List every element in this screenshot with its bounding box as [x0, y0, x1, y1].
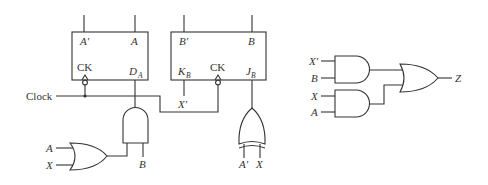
output-and1-input-xprime-label: X′ [308, 55, 319, 67]
output-and1-gate-icon [335, 56, 370, 83]
clock-net: Clock [26, 85, 218, 112]
flipflop-b-ck-label: CK [210, 61, 225, 73]
output-and2-gate-icon [335, 90, 370, 117]
output-z-label: Z [455, 72, 462, 84]
flipflop-b-j-sub: B [251, 71, 256, 80]
flipflop-a-d-label: D [128, 65, 137, 77]
clock-label: Clock [26, 90, 53, 102]
da-or-input-x-label: X [45, 159, 54, 171]
jb-xor-input-x-label: X [255, 158, 264, 170]
jb-logic: A′ X [238, 80, 265, 170]
da-or-input-a-label: A [45, 142, 53, 154]
output-and1-input-b-label: B [311, 72, 318, 84]
or-to-and-wire [107, 143, 127, 156]
flipflop-b-clock-bubble-icon [216, 80, 221, 85]
flipflop-b-k-input-label: X′ [177, 98, 188, 110]
flipflop-b-k-label: K [177, 65, 186, 77]
circuit-diagram: A′ A CK D A B′ B K B CK J B X′ Clock [0, 0, 488, 185]
da-or-gate-icon [70, 143, 107, 170]
flipflop-a-clock-bubble-icon [83, 80, 88, 85]
jb-xor-gate-icon [239, 108, 265, 144]
clock-junction-dot [83, 94, 86, 97]
flipflop-a-qbar-label: A′ [79, 35, 90, 47]
flipflop-a-q-label: A [130, 35, 138, 47]
flipflop-b-q-label: B [248, 35, 255, 47]
jb-xor-input-a-label: A′ [238, 158, 249, 170]
flipflop-a-ck-label: CK [77, 61, 92, 73]
da-and-gate-icon [123, 107, 148, 143]
flipflop-b-k-sub: B [186, 71, 191, 80]
flipflop-a-d-sub: A [137, 71, 143, 80]
output-logic: X′ B X A Z [308, 55, 462, 118]
jb-xor-extra-arc [239, 146, 265, 149]
output-and2-input-a-label: A [310, 106, 318, 118]
da-logic: B A X [45, 80, 148, 171]
output-or-gate-icon [400, 64, 438, 92]
flipflop-b-qbar-label: B′ [179, 35, 189, 47]
output-and2-input-x-label: X [310, 90, 319, 102]
and2-to-or-wire [369, 85, 403, 104]
da-and-input-b-label: B [139, 158, 146, 170]
flipflop-a: A′ A CK D A [72, 15, 148, 85]
